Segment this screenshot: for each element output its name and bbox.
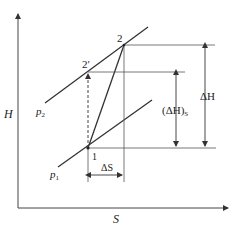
point-1-label: 1 — [92, 151, 97, 162]
point-2-dot — [123, 44, 126, 47]
delta-h-s-label: (ΔH)S — [162, 104, 188, 118]
hs-diagram: H S p2 p1 1 2 2′ ΔH (ΔH)S ΔS — [0, 0, 234, 231]
isobar-p2-line — [45, 27, 148, 103]
diagram-svg: H S p2 p1 1 2 2′ ΔH (ΔH)S ΔS — [0, 0, 234, 231]
isobar-p1-label: p1 — [49, 168, 60, 182]
isobar-p2-label: p2 — [35, 105, 46, 119]
x-axis-label: S — [113, 212, 119, 226]
delta-s-label: ΔS — [101, 162, 113, 173]
point-1-dot — [86, 146, 89, 149]
point-2prime-label: 2′ — [82, 58, 90, 70]
delta-h-label: ΔH — [200, 90, 215, 102]
isobar-p1-line — [58, 100, 152, 167]
y-axis-label: H — [3, 107, 14, 121]
point-2-label: 2 — [117, 32, 123, 44]
